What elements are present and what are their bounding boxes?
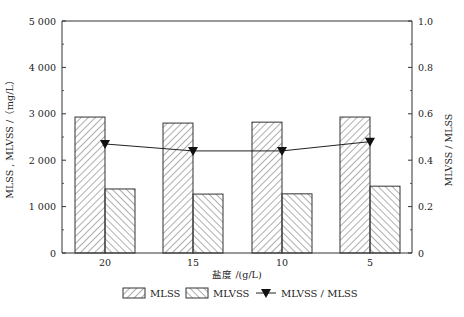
- y-tick-label: 4 000: [29, 62, 56, 73]
- chart: 01 0002 0003 0004 0005 000 00.20.40.60.8…: [0, 0, 464, 317]
- y-axis-title: MLSS , MLVSS /（mg/L）: [4, 75, 15, 198]
- x-axis-title: 盐度 /(g/L): [212, 269, 261, 280]
- legend-swatch-mlss: [123, 288, 145, 298]
- bar-mlss: [163, 123, 193, 253]
- y-tick-label: 1 000: [29, 201, 56, 212]
- x-tick-label: 10: [276, 257, 288, 268]
- y2-tick-label: 0: [418, 248, 424, 259]
- y-tick-label: 3 000: [29, 108, 56, 119]
- bar-mlvss: [193, 194, 223, 253]
- y-tick-label: 0: [50, 248, 56, 259]
- y2-tick-label: 0.2: [418, 201, 433, 212]
- y2-tick-label: 1.0: [418, 16, 433, 27]
- y2-axis-title: MLVSS / MLSS: [443, 114, 454, 187]
- legend-label-ratio: MLVSS / MLSS: [281, 288, 358, 299]
- bar-mlvss: [105, 189, 135, 253]
- y2-tick-label: 0.6: [418, 108, 433, 119]
- bar-mlss: [340, 117, 370, 253]
- y2-tick-label: 0.8: [418, 62, 433, 73]
- x-tick-label: 15: [187, 257, 199, 268]
- legend-label-mlss: MLSS: [150, 288, 181, 299]
- y-tick-label: 2 000: [29, 155, 56, 166]
- x-axis: 2015105: [99, 257, 373, 268]
- y-tick-label: 5 000: [29, 16, 56, 27]
- bar-mlvss: [370, 186, 400, 253]
- y-axis-left: 01 0002 0003 0004 0005 000: [29, 16, 66, 259]
- bars: [75, 117, 400, 253]
- y2-tick-label: 0.4: [418, 155, 433, 166]
- legend-swatch-mlvss: [186, 288, 208, 298]
- bar-mlss: [252, 122, 282, 253]
- legend-label-mlvss: MLVSS: [213, 288, 250, 299]
- bar-mlss: [75, 117, 105, 253]
- x-tick-label: 20: [99, 257, 111, 268]
- x-tick-label: 5: [367, 257, 373, 268]
- bar-mlvss: [282, 194, 312, 253]
- legend: MLSSMLVSSMLVSS / MLSS: [123, 288, 358, 299]
- ratio-line: [100, 138, 375, 156]
